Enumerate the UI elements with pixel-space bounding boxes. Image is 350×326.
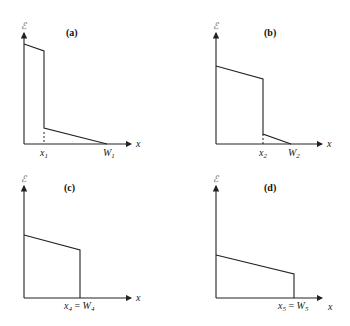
panel-c: ℰ x (c) x4 = W4 [21,174,141,313]
curve-d [216,255,294,298]
panel-title-a: (a) [66,27,78,39]
w2-label: W2 [288,147,300,160]
panel-d: ℰ x (d) x5 = W5 [213,174,333,313]
x2-label: x2 [258,147,267,160]
panel-title-c: (c) [64,182,75,194]
x1-label: x1 [39,147,48,160]
panel-b: ℰ x (b) x2 W2 [213,21,332,160]
x5-equals-w5-label: x5 = W5 [277,300,309,313]
y-axis-label-c: ℰ [21,174,28,184]
x4-equals-w4-label: x4 = W4 [63,300,95,313]
curve-a [24,44,107,144]
x-axis-label-c: x [135,292,141,303]
curve-c [24,235,80,298]
panel-title-b: (b) [264,27,276,39]
panel-a: ℰ x (a) x1 W1 [21,21,141,160]
curve-b [216,66,291,144]
x-axis-label-b: x [326,138,332,149]
figure-four-panels: ℰ x (a) x1 W1 ℰ x (b) x2 W2 ℰ x (c) x4 =… [0,0,350,326]
panel-title-d: (d) [264,182,276,194]
y-axis-label-a: ℰ [21,21,28,31]
y-axis-label-d: ℰ [213,174,220,184]
y-axis-label-b: ℰ [213,21,220,31]
w1-label: W1 [103,147,115,160]
x-axis-label-d: x [327,301,333,312]
x-axis-label-a: x [135,138,141,149]
